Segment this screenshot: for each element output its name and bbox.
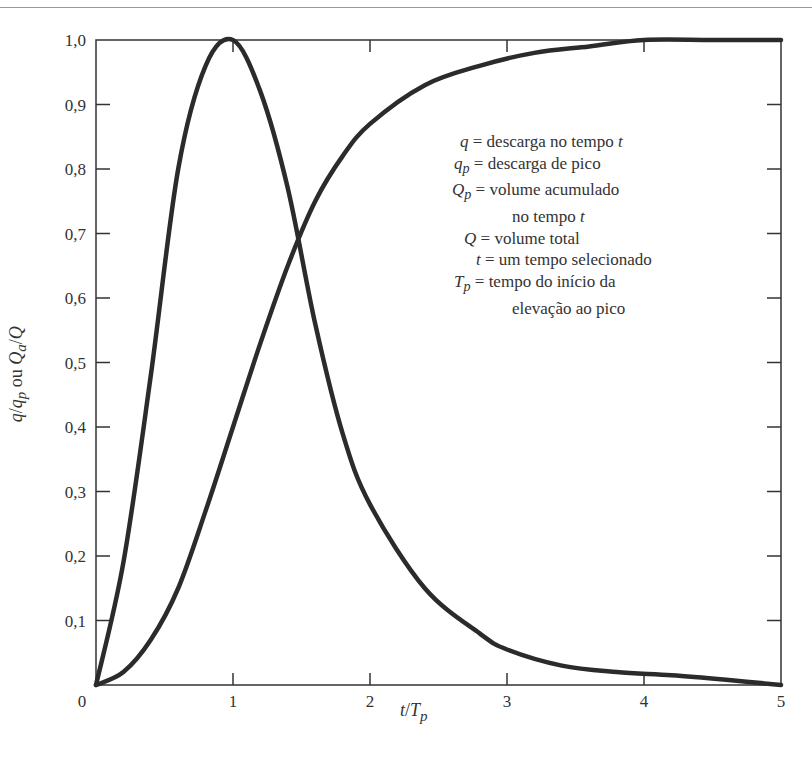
plot-frame [96, 40, 781, 685]
legend-symbol: t [476, 250, 481, 269]
chart-canvas: 0123450,10,20,30,40,50,60,70,80,91,0 [0, 0, 812, 767]
x-tick-label: 1 [229, 692, 238, 711]
legend-row: t = um tempo selecionado [440, 249, 652, 271]
legend-text: elevação ao pico [512, 299, 625, 318]
legend-text: volume total [494, 229, 579, 248]
y-tick-label: 0,8 [65, 160, 86, 179]
x-tick-label: 4 [640, 692, 649, 711]
legend-row: Tp = tempo do início da [440, 271, 652, 298]
y-tick-label: 0,4 [65, 418, 87, 437]
legend-symbol: Q [452, 180, 464, 199]
legend-definitions: q = descarga no tempo tqp = descarga de … [440, 131, 652, 319]
y-tick-label: 0,7 [65, 225, 87, 244]
legend-text: descarga de pico [488, 154, 601, 173]
legend-row: q = descarga no tempo t [440, 131, 652, 153]
legend-row: elevação ao pico [440, 298, 652, 320]
y-tick-label: 0,3 [65, 483, 86, 502]
legend-text: descarga no tempo [487, 132, 614, 151]
legend-text: volume acumulado [489, 180, 619, 199]
hydrograph-curve [96, 39, 781, 685]
axis-ticks [96, 40, 781, 685]
x-tick-label: 3 [503, 692, 512, 711]
x-tick-label: 5 [777, 692, 786, 711]
x-tick-label: 0 [78, 692, 87, 711]
legend-symbol: Q [464, 229, 476, 248]
x-axis-label: t/Tp [400, 700, 428, 725]
y-tick-label: 0,1 [65, 612, 86, 631]
legend-symbol: q [460, 132, 469, 151]
y-tick-label: 1,0 [65, 31, 86, 50]
y-tick-label: 0,2 [65, 547, 86, 566]
y-tick-label: 0,9 [65, 96, 86, 115]
tick-labels: 0123450,10,20,30,40,50,60,70,80,91,0 [65, 31, 786, 711]
data-curves [96, 39, 781, 685]
mass-curve [96, 40, 781, 685]
y-axis-label: q/qp ou Qa/Q [6, 274, 31, 474]
legend-row: no tempo t [440, 206, 652, 228]
legend-row: Qp = volume acumulado [440, 179, 652, 206]
legend-row: qp = descarga de pico [440, 153, 652, 180]
legend-text: no tempo [512, 207, 576, 226]
x-tick-label: 2 [366, 692, 375, 711]
legend-text: um tempo selecionado [499, 250, 652, 269]
y-tick-label: 0,5 [65, 354, 86, 373]
y-tick-label: 0,6 [65, 289, 86, 308]
legend-symbol: q [454, 154, 463, 173]
legend-text: tempo do início da [489, 272, 616, 291]
legend-row: Q = volume total [440, 228, 652, 250]
